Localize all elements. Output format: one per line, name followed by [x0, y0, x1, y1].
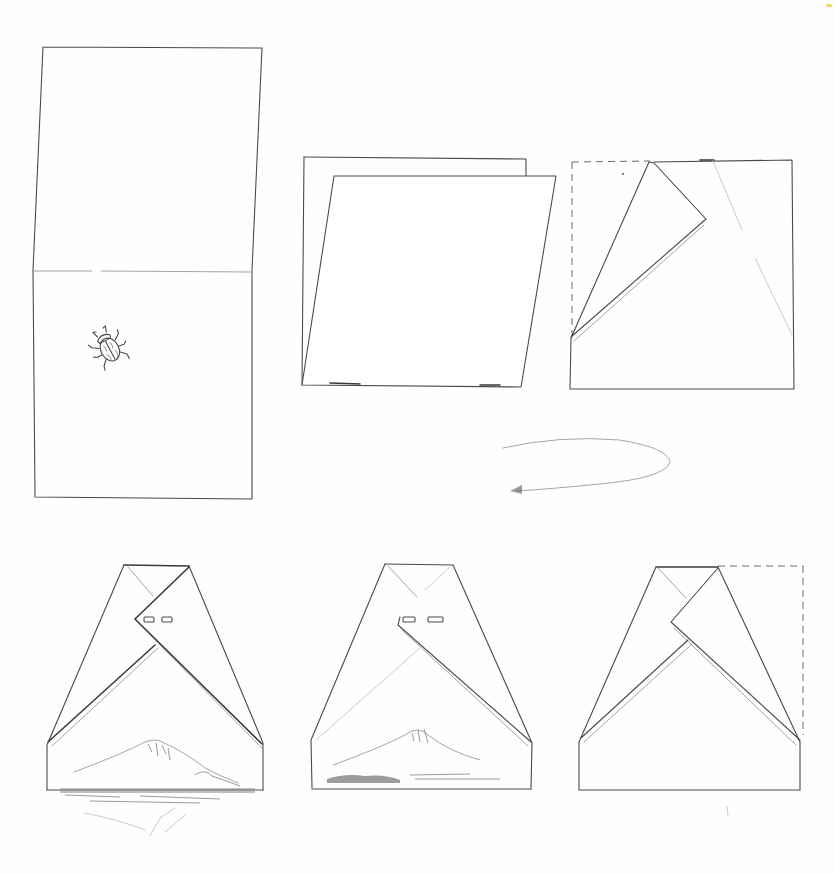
- eye-slot-left: [144, 617, 154, 622]
- step-4-finished-shape: [47, 565, 263, 790]
- beetle-icon: [83, 321, 134, 373]
- eye-slot-left: [403, 617, 415, 622]
- step-5-finished-shape: [311, 564, 532, 789]
- eye-slot-right: [428, 617, 443, 622]
- step-2-sheets: [302, 157, 556, 387]
- step-6-folded-shape: [579, 566, 803, 816]
- dot-mark: [622, 173, 624, 175]
- step-3-folded-square: [570, 160, 794, 389]
- step-1-sheet: [33, 47, 262, 499]
- mount-fuji-illustration: [60, 740, 255, 836]
- diagram-canvas: [0, 0, 835, 874]
- origami-diagram: [0, 0, 835, 874]
- turn-over-arrow-icon: [503, 439, 670, 494]
- eye-slot-right: [162, 617, 172, 622]
